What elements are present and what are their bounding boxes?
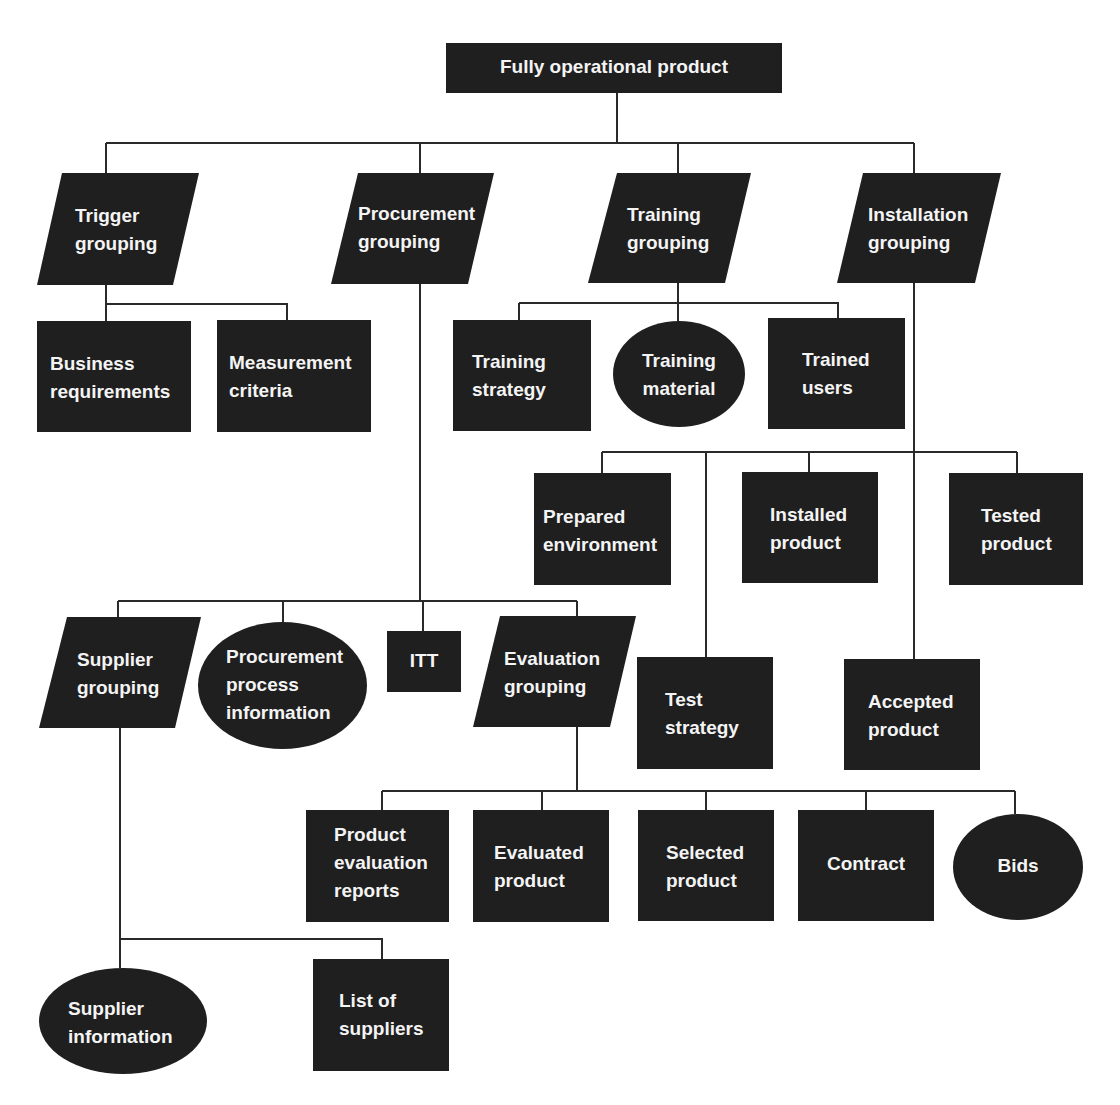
rectangle-shape: [453, 320, 591, 431]
rectangle-shape: [742, 472, 878, 583]
node-selected-product: Selectedproduct: [638, 810, 774, 921]
node-measurement-criteria: Measurementcriteria: [217, 320, 371, 432]
rectangle-shape: [768, 318, 905, 429]
parallelogram-shape: [39, 617, 201, 728]
parallelogram-shape: [331, 173, 494, 284]
node-root: Fully operational product: [446, 43, 782, 93]
rectangle-shape: [949, 473, 1083, 585]
node-supplier-grouping: Suppliergrouping: [39, 617, 201, 728]
node-product-evaluation-reports: Productevaluationreports: [306, 810, 449, 922]
parallelogram-shape: [473, 616, 636, 727]
node-label: Fully operational product: [500, 56, 729, 77]
rectangle-shape: [473, 810, 609, 922]
node-label: ITT: [410, 650, 439, 671]
node-bids: Bids: [953, 814, 1083, 920]
node-contract: Contract: [798, 810, 934, 921]
node-prepared-environment: Preparedenvironment: [534, 473, 671, 585]
node-procurement: Procurementgrouping: [331, 173, 494, 284]
node-test-strategy: Teststrategy: [637, 657, 773, 769]
node-evaluation-grouping: Evaluationgrouping: [473, 616, 636, 727]
rectangle-shape: [844, 659, 980, 770]
ellipse-shape: [39, 968, 207, 1074]
node-accepted-product: Acceptedproduct: [844, 659, 980, 770]
node-trained-users: Trainedusers: [768, 318, 905, 429]
parallelogram-shape: [37, 173, 199, 285]
node-tested-product: Testedproduct: [949, 473, 1083, 585]
node-training-material: Trainingmaterial: [613, 321, 745, 427]
ellipse-shape: [613, 321, 745, 427]
node-evaluated-product: Evaluatedproduct: [473, 810, 609, 922]
rectangle-shape: [37, 321, 191, 432]
node-procurement-process-information: Procurementprocessinformation: [198, 622, 367, 749]
node-label: Bids: [997, 855, 1038, 876]
parallelogram-shape: [837, 173, 1001, 283]
work-breakdown-diagram: Fully operational productTriggergrouping…: [0, 0, 1120, 1105]
node-label: Contract: [827, 853, 906, 874]
rectangle-shape: [638, 810, 774, 921]
rectangle-shape: [217, 320, 371, 432]
rectangle-shape: [534, 473, 671, 585]
node-itt: ITT: [387, 631, 461, 692]
rectangle-shape: [313, 959, 449, 1071]
node-list-of-suppliers: List ofsuppliers: [313, 959, 449, 1071]
node-supplier-information: Supplierinformation: [39, 968, 207, 1074]
rectangle-shape: [637, 657, 773, 769]
node-installation: Installationgrouping: [837, 173, 1001, 283]
node-business-requirements: Businessrequirements: [37, 321, 191, 432]
node-training-strategy: Trainingstrategy: [453, 320, 591, 431]
node-installed-product: Installedproduct: [742, 472, 878, 583]
node-trigger: Triggergrouping: [37, 173, 199, 285]
